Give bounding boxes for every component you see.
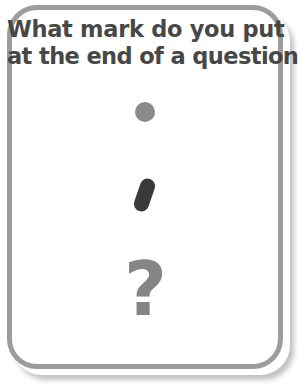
question-mark-icon: ?: [124, 250, 167, 328]
period-icon: [135, 102, 155, 122]
answer-options-list: ?: [7, 92, 283, 342]
answer-option-comma[interactable]: [7, 172, 283, 218]
flashcard-root: What mark do you put at the end of a que…: [0, 0, 298, 386]
card-content: What mark do you put at the end of a que…: [0, 0, 298, 386]
comma-icon: [131, 176, 156, 213]
question-line-2: at the end of a question?: [7, 43, 283, 70]
answer-option-period[interactable]: [7, 92, 283, 132]
question-prompt: What mark do you put at the end of a que…: [7, 16, 283, 70]
question-line-1: What mark do you put: [7, 16, 283, 43]
answer-option-question-mark[interactable]: ?: [7, 250, 283, 328]
